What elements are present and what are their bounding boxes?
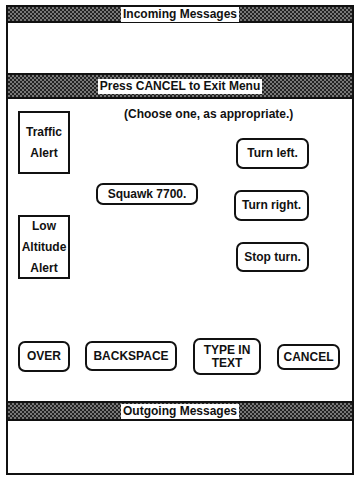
menu-header: Press CANCEL to Exit Menu <box>8 73 352 99</box>
incoming-messages-title: Incoming Messages <box>121 7 239 22</box>
over-button[interactable]: OVER <box>18 341 70 372</box>
type-in-text-button[interactable]: TYPE IN TEXT <box>193 338 261 375</box>
low-altitude-alert-line-1: Low <box>22 216 67 237</box>
stop-turn-button[interactable]: Stop turn. <box>236 242 309 272</box>
low-altitude-alert-button[interactable]: Low Altitude Alert <box>18 215 70 279</box>
outgoing-messages-area <box>8 421 352 473</box>
instruction-text: (Choose one, as appropriate.) <box>124 107 293 121</box>
incoming-messages-area <box>8 23 352 73</box>
turn-right-button[interactable]: Turn right. <box>234 190 309 221</box>
squawk-7700-button[interactable]: Squawk 7700. <box>96 183 198 205</box>
menu-title: Press CANCEL to Exit Menu <box>98 79 262 94</box>
cancel-button[interactable]: CANCEL <box>277 344 340 370</box>
backspace-button[interactable]: BACKSPACE <box>85 341 177 371</box>
type-in-text-line-1: TYPE IN <box>204 344 251 357</box>
traffic-alert-line-1: Traffic <box>26 122 62 143</box>
low-altitude-alert-line-2: Altitude <box>22 237 67 258</box>
incoming-messages-header: Incoming Messages <box>8 7 352 23</box>
message-window: Incoming Messages Press CANCEL to Exit M… <box>6 5 354 475</box>
outgoing-messages-header: Outgoing Messages <box>8 401 352 421</box>
type-in-text-line-2: TEXT <box>204 357 251 370</box>
turn-left-button[interactable]: Turn left. <box>236 138 309 169</box>
traffic-alert-button[interactable]: Traffic Alert <box>18 111 70 174</box>
low-altitude-alert-line-3: Alert <box>22 258 67 279</box>
outgoing-messages-title: Outgoing Messages <box>121 404 239 419</box>
traffic-alert-line-2: Alert <box>26 143 62 164</box>
